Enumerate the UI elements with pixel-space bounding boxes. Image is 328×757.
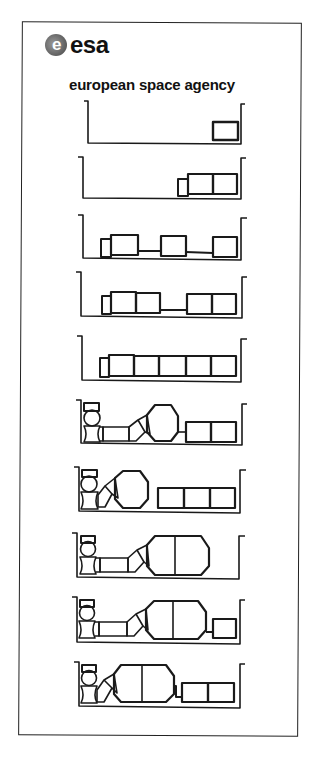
module xyxy=(186,356,211,376)
module xyxy=(161,236,186,256)
module xyxy=(213,122,238,140)
module xyxy=(211,356,236,376)
node xyxy=(101,239,111,257)
module xyxy=(111,292,136,313)
docking-adapter xyxy=(81,665,97,703)
large-module xyxy=(115,471,148,508)
elbow-adapter xyxy=(127,614,143,636)
module xyxy=(182,683,208,702)
docking-adapter xyxy=(84,403,100,442)
stage-10 xyxy=(74,662,245,708)
module xyxy=(212,294,236,314)
stage-3 xyxy=(78,215,247,260)
stage-9 xyxy=(72,597,245,644)
module xyxy=(158,488,184,508)
module xyxy=(187,294,212,314)
elbow-adapter xyxy=(97,680,112,702)
tunnel xyxy=(99,622,127,636)
large-module xyxy=(146,601,206,639)
assembly-sequence-diagram xyxy=(0,0,328,757)
module xyxy=(188,174,213,194)
elbow-adapter xyxy=(129,420,145,441)
stage-4 xyxy=(76,272,247,318)
stage-2 xyxy=(78,157,246,199)
strut xyxy=(174,686,182,697)
large-module xyxy=(147,405,178,441)
module xyxy=(136,293,160,313)
module xyxy=(111,235,138,255)
module xyxy=(213,619,236,638)
stage-1 xyxy=(84,101,245,144)
module xyxy=(184,488,210,508)
elbow-adapter xyxy=(128,550,144,572)
module xyxy=(211,422,236,442)
node xyxy=(178,179,188,196)
tunnel xyxy=(100,558,128,572)
strut xyxy=(186,252,213,253)
large-module xyxy=(114,665,174,702)
docking-adapter xyxy=(80,536,96,574)
module xyxy=(186,422,211,442)
stage-6 xyxy=(76,400,247,445)
elbow-adapter xyxy=(98,486,112,507)
stage-8 xyxy=(72,533,245,579)
module xyxy=(213,237,237,257)
stage-5 xyxy=(77,336,247,382)
module xyxy=(134,356,159,376)
node xyxy=(102,296,111,314)
stage-7 xyxy=(74,467,246,513)
large-module xyxy=(147,536,209,575)
module xyxy=(213,174,237,194)
docking-adapter xyxy=(79,600,95,638)
node xyxy=(100,358,109,377)
module xyxy=(210,488,235,508)
module xyxy=(159,356,186,376)
module xyxy=(208,683,234,702)
tunnel xyxy=(103,427,129,441)
module xyxy=(109,355,134,376)
cargo-bay xyxy=(78,157,246,199)
cargo-bay xyxy=(74,467,246,513)
docking-adapter xyxy=(81,470,98,509)
